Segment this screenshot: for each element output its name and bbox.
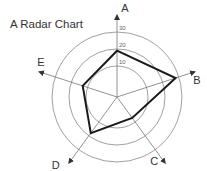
axis-e — [39, 72, 117, 97]
axis-label-b: B — [193, 74, 200, 86]
tick-label-10: 10 — [119, 59, 126, 65]
axis-c — [117, 97, 165, 163]
radar-chart: A Radar Chart 102030 ABCDE — [0, 0, 207, 171]
chart-title: A Radar Chart — [10, 18, 84, 30]
axis-d — [69, 97, 117, 163]
tick-label-20: 20 — [119, 42, 126, 48]
axes — [39, 15, 195, 163]
axis-label-c: C — [150, 155, 158, 167]
tick-labels: 102030 — [119, 25, 126, 65]
axis-b — [117, 72, 195, 97]
axis-label-e: E — [37, 56, 44, 68]
tick-label-30: 30 — [119, 25, 126, 31]
axis-label-d: D — [52, 159, 60, 171]
axis-label-a: A — [121, 2, 129, 14]
